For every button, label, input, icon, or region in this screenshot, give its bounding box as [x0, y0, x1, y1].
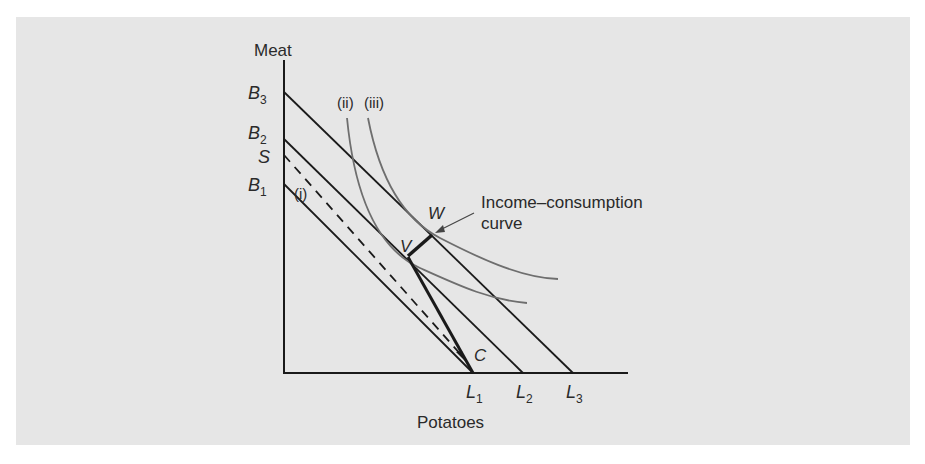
budget-line-b3-l3	[284, 92, 573, 373]
annotation-arrowhead	[435, 225, 445, 233]
point-label-v: V	[400, 237, 413, 256]
point-label-w: W	[428, 204, 446, 223]
dashed-line-s	[284, 155, 462, 356]
curve-label-i: (i)	[294, 185, 307, 202]
annotation-arrow	[440, 213, 474, 230]
label-b1: B1	[248, 175, 267, 199]
income-consumption-diagram: Meat Potatoes B3 B2 S B1 L1 L2 L3 (i) (i…	[0, 0, 925, 464]
x-axis-label: Potatoes	[417, 413, 484, 432]
label-l2: L2	[516, 382, 533, 406]
annotation-line-2: curve	[481, 214, 523, 233]
label-b2: B2	[248, 123, 267, 147]
income-consumption-curve	[408, 235, 432, 256]
label-l1: L1	[466, 382, 483, 406]
y-axis-label: Meat	[254, 41, 292, 60]
label-l3: L3	[566, 382, 583, 406]
curve-label-iii: (iii)	[364, 94, 384, 111]
point-label-c: C	[474, 346, 487, 365]
label-s: S	[258, 147, 270, 167]
label-b3: B3	[248, 83, 267, 107]
annotation-line-1: Income–consumption	[481, 193, 643, 212]
curve-label-ii: (ii)	[337, 94, 354, 111]
budget-line-b2-l2	[284, 139, 523, 373]
